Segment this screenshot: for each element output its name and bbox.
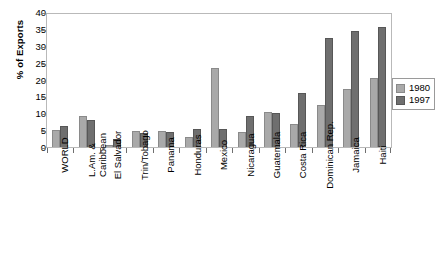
y-tick-mark: [41, 81, 46, 82]
x-tick-label-text: Nicaragua: [246, 133, 257, 176]
x-tick-label: WORLD: [47, 153, 73, 253]
y-tick-mark: [41, 13, 46, 14]
x-tick-label: Panama: [153, 153, 179, 253]
bar-1997[interactable]: [351, 31, 359, 147]
legend-swatch-1997: [396, 96, 405, 105]
x-tick-label-text: Haiti: [378, 145, 389, 164]
x-tick-label: Nicaragua: [232, 153, 258, 253]
bar-1980[interactable]: [370, 78, 378, 147]
x-tick-label-text: Guatemala: [272, 132, 283, 178]
bar-group: [365, 14, 391, 147]
y-tick-mark: [41, 114, 46, 115]
bar-group: [73, 14, 99, 147]
x-tick-label-text: WORLD: [60, 137, 71, 172]
legend-item[interactable]: 1997: [396, 94, 430, 106]
y-tick-mark: [41, 97, 46, 98]
legend: 1980 1997: [392, 78, 435, 110]
x-tick-label-text: Panama: [166, 137, 177, 172]
x-tick-label: Honduras: [179, 153, 205, 253]
x-axis-labels: WORLDL.Am. & CaribbeanEl SalvadorTrin/To…: [47, 153, 391, 253]
x-tick-label-text: Dominican Rep.: [325, 121, 336, 189]
x-tick-label: Mexico: [206, 153, 232, 253]
bar-group: [47, 14, 73, 147]
bar-group: [126, 14, 152, 147]
y-tick-mark: [41, 131, 46, 132]
bar-group: [179, 14, 205, 147]
bar-group: [206, 14, 232, 147]
x-tick-label: El Salvador: [100, 153, 126, 253]
bar-series-container: [47, 14, 391, 147]
bar-group: [100, 14, 126, 147]
bar-group: [285, 14, 311, 147]
x-tick-label: Dominican Rep.: [312, 153, 338, 253]
bar-1980[interactable]: [211, 68, 219, 147]
x-tick-label: Guatemala: [259, 153, 285, 253]
legend-swatch-1980: [396, 84, 405, 93]
x-tick-label-text: Mexico: [219, 140, 230, 170]
bar-group: [259, 14, 285, 147]
x-tick-label: L.Am. & Caribbean: [73, 153, 99, 253]
bar-1997[interactable]: [378, 27, 386, 147]
x-tick-label: Haiti: [365, 153, 391, 253]
x-tick-label-text: Honduras: [193, 134, 204, 175]
bar-group: [338, 14, 364, 147]
legend-label-1980: 1980: [409, 83, 430, 93]
x-tick-label-text: Jamaica: [351, 137, 362, 172]
x-tick-label-text: Costa Rica: [298, 132, 309, 178]
y-tick-mark: [41, 47, 46, 48]
x-tick-label-text: Trin/Tobago: [140, 130, 151, 180]
y-tick-mark: [41, 64, 46, 65]
bar-group: [153, 14, 179, 147]
x-tick-label: Jamaica: [338, 153, 364, 253]
y-tick-mark: [41, 30, 46, 31]
x-tick-label: Trin/Tobago: [126, 153, 152, 253]
bar-chart: % of Exports 0510152025303540 WORLDL.Am.…: [0, 0, 445, 256]
bar-group: [232, 14, 258, 147]
y-tick-mark: [41, 148, 46, 149]
x-tick-label: Costa Rica: [285, 153, 311, 253]
legend-item[interactable]: 1980: [396, 82, 430, 94]
x-tick-label-text: El Salvador: [113, 131, 124, 180]
legend-label-1997: 1997: [409, 95, 430, 105]
